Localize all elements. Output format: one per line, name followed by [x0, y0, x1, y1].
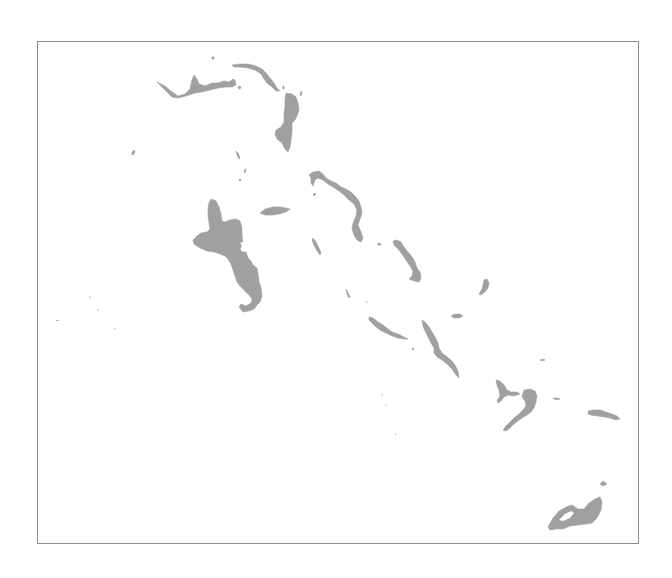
islet [300, 91, 302, 96]
islet [114, 328, 116, 330]
island-san-salvador[interactable] [479, 279, 489, 295]
islet [97, 309, 99, 311]
island-mayaguana-small [540, 359, 545, 361]
island-great-inagua[interactable] [548, 497, 602, 530]
islet [89, 296, 91, 298]
island-new-providence[interactable] [260, 207, 290, 215]
island-cat-island[interactable] [393, 240, 421, 282]
island-eleuthera[interactable] [309, 171, 363, 242]
islet [553, 398, 560, 400]
islet [283, 86, 284, 89]
islet [346, 289, 350, 298]
islet [395, 432, 396, 435]
islet [385, 404, 386, 405]
islet [381, 394, 383, 396]
island-exuma[interactable] [369, 317, 408, 339]
island-little-inagua[interactable] [600, 481, 607, 486]
island-crooked-island[interactable] [496, 380, 520, 403]
island-berry-islands[interactable] [236, 151, 240, 159]
islet [56, 320, 59, 321]
island-exuma-cays[interactable] [312, 238, 321, 255]
island-mayaguana[interactable] [588, 410, 620, 420]
islet [377, 243, 381, 245]
island-long-island[interactable] [422, 320, 459, 378]
islet [412, 348, 414, 350]
island-bimini[interactable] [132, 150, 135, 155]
bahamas-map [0, 0, 672, 578]
island-abaco[interactable] [275, 93, 299, 152]
island-grand-bahama-tip [238, 86, 241, 89]
islet [212, 57, 214, 59]
islet [239, 179, 241, 181]
island-andros[interactable] [193, 199, 262, 312]
islet [366, 301, 368, 303]
island-grand-bahama[interactable] [157, 75, 236, 98]
islet [313, 193, 316, 196]
islet [244, 169, 246, 173]
island-rum-cay[interactable] [451, 314, 463, 318]
